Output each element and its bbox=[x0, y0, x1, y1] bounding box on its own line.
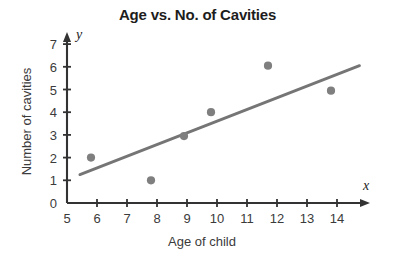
y-tick-label: 2 bbox=[50, 151, 57, 166]
x-tick-label-group: 567891011121314 bbox=[63, 211, 344, 226]
x-tick-label: 5 bbox=[63, 211, 70, 226]
chart-figure: Age vs. No. of Cavities Number of caviti… bbox=[0, 0, 395, 263]
x-tick-label: 10 bbox=[210, 211, 224, 226]
data-point bbox=[87, 154, 95, 162]
x-tick-label: 6 bbox=[93, 211, 100, 226]
data-point bbox=[180, 132, 188, 140]
y-tick-label: 0 bbox=[50, 196, 57, 211]
data-point bbox=[147, 176, 155, 184]
y-tick-label: 5 bbox=[50, 83, 57, 98]
y-tick-label: 7 bbox=[50, 37, 57, 52]
data-point bbox=[327, 87, 335, 95]
x-tick-label: 12 bbox=[270, 211, 284, 226]
y-axis-variable-label: y bbox=[74, 27, 83, 42]
trend-line bbox=[80, 66, 360, 175]
x-tick-label: 13 bbox=[300, 211, 314, 226]
y-tick-label: 3 bbox=[50, 128, 57, 143]
y-tick-label: 1 bbox=[50, 173, 57, 188]
x-axis-arrowhead bbox=[360, 199, 370, 207]
y-tick-label: 4 bbox=[50, 105, 57, 120]
x-axis-variable-label: x bbox=[362, 178, 370, 193]
x-tick-label: 8 bbox=[153, 211, 160, 226]
axes-group bbox=[63, 32, 370, 207]
x-tick-label: 14 bbox=[330, 211, 344, 226]
data-point bbox=[207, 108, 215, 116]
scatter-plot-canvas: 01234567 567891011121314 y x bbox=[0, 0, 395, 263]
y-axis-arrowhead bbox=[63, 32, 71, 42]
y-tick-label-group: 01234567 bbox=[50, 37, 57, 211]
x-tick-label: 7 bbox=[123, 211, 130, 226]
y-tick-label: 6 bbox=[50, 60, 57, 75]
data-point bbox=[264, 62, 272, 70]
x-tick-label: 11 bbox=[240, 211, 254, 226]
x-tick-label: 9 bbox=[183, 211, 190, 226]
